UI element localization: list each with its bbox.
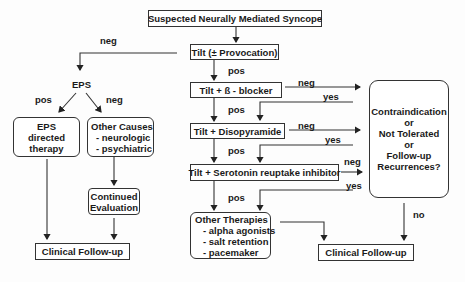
node-clinical-followup-left: Clinical Follow-up — [35, 243, 130, 260]
decision-line: Contraindication — [371, 106, 446, 117]
decision-line: Recurrences? — [377, 161, 440, 172]
therapy-item: - alpha agonists — [195, 225, 275, 236]
node-line: Evaluation — [90, 202, 138, 213]
node-eps: EPS — [72, 79, 91, 90]
edge-label-tilt-pos: pos — [228, 65, 245, 76]
cause-item: - neurologic — [91, 132, 150, 143]
decision-line: Not Tolerated — [379, 128, 440, 139]
node-tilt-disopyramide: Tilt + Disopyramide — [190, 123, 285, 139]
edge-label-beta-neg: neg — [298, 77, 315, 88]
node-line: Continued — [91, 191, 138, 202]
node-tilt-beta-blocker: Tilt + ß - blocker — [190, 82, 282, 98]
node-line: therapy — [29, 143, 63, 154]
edge-label-diso-pos: pos — [228, 145, 245, 156]
node-label: Tilt (± Provocation) — [192, 47, 278, 58]
node-line: directed — [28, 132, 65, 143]
edge-label-decision-no: no — [413, 209, 425, 220]
node-suspected-syncope: Suspected Neurally Mediated Syncope — [148, 10, 322, 27]
edge-label-eps-neg: neg — [106, 94, 123, 105]
node-label: Suspected Neurally Mediated Syncope — [148, 13, 322, 24]
node-title: Other Therapies — [195, 214, 268, 225]
edge-label-beta-yes: yes — [323, 91, 339, 102]
node-other-therapies: Other Therapies - alpha agonists - salt … — [190, 212, 271, 259]
edge-label-ssri-pos: pos — [228, 192, 245, 203]
decision-line: or — [404, 117, 414, 128]
node-label: Tilt + Disopyramide — [194, 126, 282, 137]
node-other-causes: Other Causes - neurologic - psychiatric — [87, 117, 154, 157]
decision-line: Follow-up — [387, 150, 432, 161]
node-label: Clinical Follow-up — [325, 247, 406, 258]
edge-label-ssri-neg: neg — [344, 156, 361, 167]
node-tilt-serotonin: Tilt + Serotonin reuptake inhibitor — [190, 164, 339, 181]
flowchart-canvas: Suspected Neurally Mediated Syncope Tilt… — [0, 0, 465, 282]
cause-item: - psychiatric — [91, 143, 152, 154]
edge-label-beta-pos: pos — [228, 104, 245, 115]
node-clinical-followup-right: Clinical Follow-up — [318, 244, 414, 261]
node-label: Tilt + ß - blocker — [200, 85, 273, 96]
node-title: Other Causes — [91, 121, 153, 132]
edge-label-diso-neg: neg — [298, 120, 315, 131]
node-eps-directed-therapy: EPS directed therapy — [13, 117, 80, 157]
therapy-item: - pacemaker — [195, 247, 258, 258]
edge-label-ssri-yes: yes — [346, 180, 362, 191]
decision-line: or — [404, 139, 414, 150]
edge-label-diso-yes: yes — [325, 134, 341, 145]
node-tilt-provocation: Tilt (± Provocation) — [190, 44, 279, 60]
node-continued-evaluation: Continued Evaluation — [88, 188, 140, 215]
node-label: Tilt + Serotonin reuptake inhibitor — [188, 167, 340, 178]
edge-label-eps-pos: pos — [35, 94, 52, 105]
edge-label-tilt-neg: neg — [100, 35, 117, 46]
node-line: EPS — [37, 121, 56, 132]
therapy-item: - salt retention — [195, 236, 268, 247]
node-decision: Contraindication or Not Tolerated or Fol… — [369, 80, 449, 198]
node-label: Clinical Follow-up — [42, 246, 123, 257]
